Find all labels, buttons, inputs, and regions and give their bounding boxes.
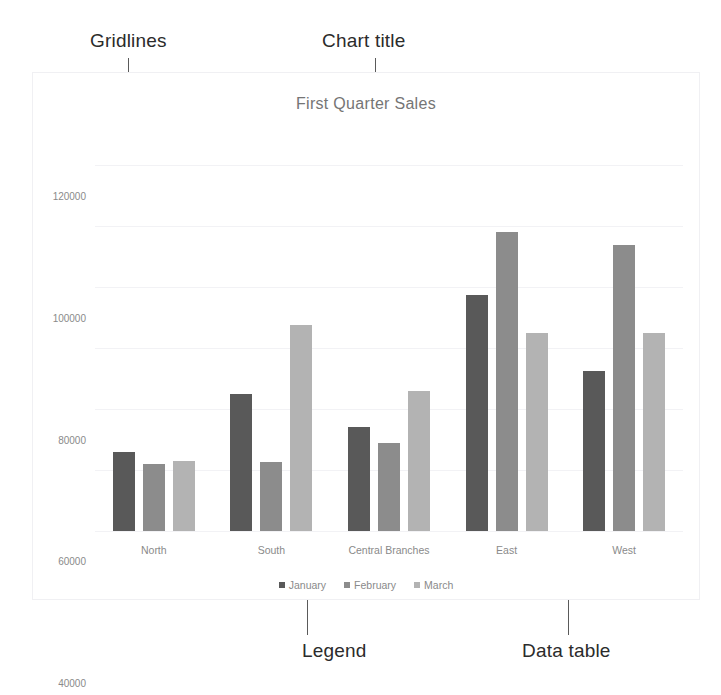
bar[interactable] [526, 333, 548, 531]
y-axis-tick-label: 80000 [58, 434, 86, 445]
y-axis-tick-label: 60000 [58, 556, 86, 567]
gridline: 0 [95, 531, 683, 532]
chart-area[interactable]: First Quarter Sales 02000040000600008000… [32, 72, 700, 600]
legend-swatch-icon [344, 582, 350, 588]
bar-groups: NorthSouthCentral BranchesEastWest [95, 135, 683, 531]
bar[interactable] [613, 245, 635, 531]
bar[interactable] [408, 391, 430, 531]
bar[interactable] [643, 333, 665, 531]
bar[interactable] [260, 462, 282, 531]
bar-group: South [213, 135, 331, 531]
screenshot-root: Gridlines Chart title Legend Data table … [0, 0, 721, 695]
x-axis-category-label: North [95, 544, 213, 556]
legend-item[interactable]: January [279, 579, 326, 591]
bar[interactable] [290, 325, 312, 531]
y-axis-tick-label: 40000 [58, 678, 86, 689]
legend-item[interactable]: February [344, 579, 396, 591]
legend-swatch-icon [279, 582, 285, 588]
callout-label-gridlines: Gridlines [90, 30, 167, 52]
bar[interactable] [230, 394, 252, 531]
bar[interactable] [466, 295, 488, 531]
legend-item[interactable]: March [414, 579, 453, 591]
bar[interactable] [113, 452, 135, 531]
legend-swatch-icon [414, 582, 420, 588]
legend-label: March [424, 579, 453, 591]
bar[interactable] [348, 427, 370, 531]
x-axis-category-label: East [448, 544, 566, 556]
callout-label-legend: Legend [302, 640, 367, 662]
callout-label-chart-title: Chart title [322, 30, 406, 52]
x-axis-category-label: Central Branches [330, 544, 448, 556]
bar[interactable] [143, 464, 165, 531]
bar[interactable] [378, 443, 400, 531]
bar-group: North [95, 135, 213, 531]
chart-legend[interactable]: JanuaryFebruaryMarch [33, 579, 699, 591]
bar[interactable] [173, 461, 195, 531]
callout-label-data-table: Data table [522, 640, 611, 662]
bar-group: West [565, 135, 683, 531]
chart-title[interactable]: First Quarter Sales [33, 95, 699, 113]
bar[interactable] [583, 371, 605, 531]
bar[interactable] [496, 232, 518, 531]
y-axis-tick-label: 100000 [53, 312, 86, 323]
legend-label: February [354, 579, 396, 591]
plot-area: 020000400006000080000100000120000 NorthS… [95, 135, 683, 531]
x-axis-category-label: South [213, 544, 331, 556]
legend-label: January [289, 579, 326, 591]
bar-group: Central Branches [330, 135, 448, 531]
bar-group: East [448, 135, 566, 531]
x-axis-category-label: West [565, 544, 683, 556]
y-axis-tick-label: 120000 [53, 190, 86, 201]
